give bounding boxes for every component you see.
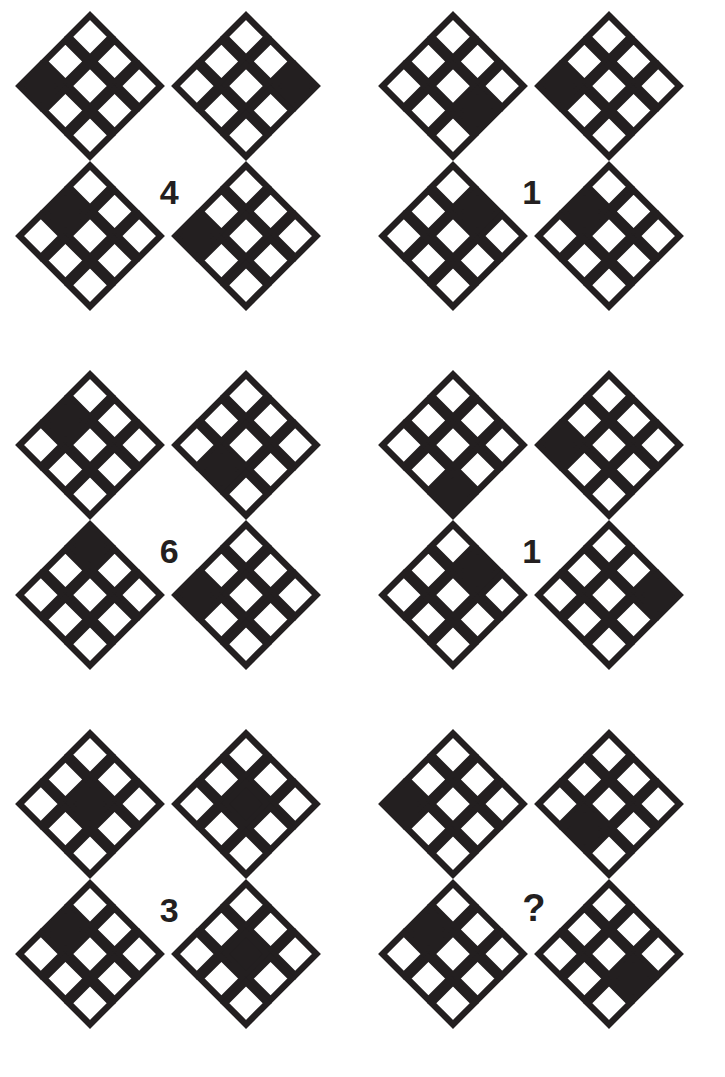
diamond-tl <box>375 726 531 882</box>
diamond-tr <box>168 8 324 164</box>
diamond-tr <box>531 726 687 882</box>
puzzle-group-row: 41 <box>0 0 725 359</box>
puzzle-sheet: 41613? <box>0 0 725 1077</box>
diamond-grid <box>12 8 168 164</box>
puzzle-group-group-5: 3 <box>0 718 363 1077</box>
puzzle-group-row: 3? <box>0 718 725 1077</box>
diamond-grid <box>168 8 324 164</box>
diamond-bl <box>375 158 531 314</box>
diamond-br <box>531 876 687 1032</box>
diamond-grid <box>375 876 531 1032</box>
diamond-grid <box>168 158 324 314</box>
diamond-grid <box>12 876 168 1032</box>
diamond-grid <box>375 726 531 882</box>
puzzle-group-group-3: 6 <box>0 359 363 718</box>
diamond-grid <box>375 517 531 673</box>
diamond-grid <box>168 367 324 523</box>
diamond-grid <box>531 876 687 1032</box>
diamond-grid <box>168 726 324 882</box>
diamond-grid <box>168 876 324 1032</box>
diamond-tr <box>168 367 324 523</box>
diamond-bl <box>12 158 168 314</box>
diamond-tl <box>12 367 168 523</box>
diamond-tr <box>531 367 687 523</box>
puzzle-group-group-6: ? <box>363 718 725 1077</box>
diamond-grid <box>375 367 531 523</box>
diamond-grid <box>531 8 687 164</box>
diamond-grid <box>375 158 531 314</box>
diamond-tl <box>12 8 168 164</box>
diamond-grid <box>12 158 168 314</box>
diamond-grid <box>12 367 168 523</box>
diamond-grid <box>168 517 324 673</box>
diamond-tr <box>168 726 324 882</box>
diamond-grid <box>12 726 168 882</box>
diamond-tl <box>375 8 531 164</box>
diamond-tl <box>12 726 168 882</box>
puzzle-group-row: 61 <box>0 359 725 718</box>
diamond-bl <box>375 517 531 673</box>
diamond-grid <box>531 517 687 673</box>
diamond-bl <box>375 876 531 1032</box>
diamond-br <box>168 876 324 1032</box>
diamond-grid <box>12 517 168 673</box>
diamond-grid <box>531 367 687 523</box>
diamond-tr <box>531 8 687 164</box>
diamond-tl <box>375 367 531 523</box>
diamond-grid <box>531 158 687 314</box>
diamond-grid <box>375 8 531 164</box>
diamond-br <box>168 158 324 314</box>
diamond-br <box>168 517 324 673</box>
diamond-grid <box>531 726 687 882</box>
puzzle-group-group-2: 1 <box>363 0 725 359</box>
diamond-br <box>531 158 687 314</box>
diamond-bl <box>12 517 168 673</box>
puzzle-group-group-1: 4 <box>0 0 363 359</box>
puzzle-group-group-4: 1 <box>363 359 725 718</box>
diamond-bl <box>12 876 168 1032</box>
diamond-br <box>531 517 687 673</box>
